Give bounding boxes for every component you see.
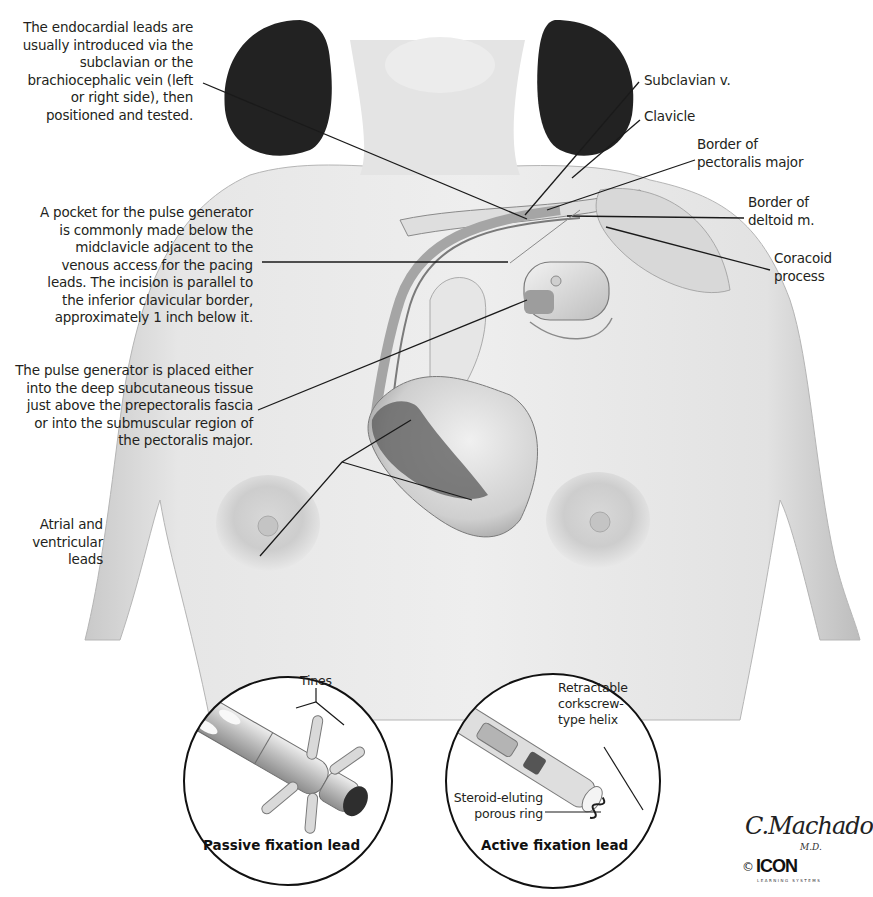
tines-label: Tines	[300, 672, 332, 690]
label-line: Border of	[697, 136, 803, 154]
label-line: or right side), then	[23, 89, 193, 107]
label-line: Coracoid	[774, 250, 832, 268]
label-line: pectoralis major	[697, 154, 803, 172]
label-line: The endocardial leads are	[23, 19, 193, 37]
label-line: Subclavian v.	[644, 72, 731, 90]
label-line: or into the submuscular region of	[15, 415, 253, 433]
label-line: just above the prepectoralis fascia	[15, 397, 253, 415]
label-line: approximately 1 inch below it.	[40, 309, 253, 327]
label-line: corkscrew-	[558, 696, 628, 712]
clavicle-label: Clavicle	[644, 108, 695, 126]
artist-suffix: M.D.	[800, 842, 822, 852]
label-line: leads	[32, 551, 103, 569]
subclavian-v-label: Subclavian v.	[644, 72, 731, 90]
label-line: Tines	[300, 672, 332, 690]
label-line: The pulse generator is placed either	[15, 362, 253, 380]
label-line: A pocket for the pulse generator	[40, 204, 253, 222]
passive-fixation-caption: Passive fixation lead	[203, 837, 360, 853]
label-line: is commonly made below the	[40, 222, 253, 240]
coracoid-process-label: Coracoid process	[774, 250, 832, 285]
helix-label: Retractable corkscrew- type helix	[558, 680, 628, 728]
label-line: usually introduced via the	[23, 37, 193, 55]
label-line: process	[774, 268, 832, 286]
artist-signature: C.Machado	[745, 812, 873, 840]
pocket-label: A pocket for the pulse generator is comm…	[40, 204, 253, 327]
hair-right	[537, 20, 633, 156]
atrial-ventricular-leads-label: Atrial and ventricular leads	[32, 516, 103, 569]
chin	[385, 37, 495, 93]
label-line: leads. The incision is parallel to	[40, 274, 253, 292]
label-line: porous ring	[454, 806, 543, 822]
label-line: into the deep subcutaneous tissue	[15, 380, 253, 398]
label-line: positioned and tested.	[23, 107, 193, 125]
label-line: brachiocephalic vein (left	[23, 72, 193, 90]
active-fixation-caption: Active fixation lead	[481, 837, 628, 853]
label-line: type helix	[558, 712, 628, 728]
label-line: the pectoralis major.	[15, 432, 253, 450]
label-line: deltoid m.	[748, 212, 814, 230]
logo-subtitle: LEARNING SYSTEMS	[757, 878, 821, 883]
label-line: midclavicle adjacent to the	[40, 239, 253, 257]
label-line: Border of	[748, 194, 814, 212]
label-line: Clavicle	[644, 108, 695, 126]
steroid-ring-label: Steroid-eluting porous ring	[454, 790, 543, 822]
label-line: subclavian or the	[23, 54, 193, 72]
border-deltoid-label: Border of deltoid m.	[748, 194, 814, 229]
label-line: the inferior clavicular border,	[40, 292, 253, 310]
label-line: Steroid-eluting	[454, 790, 543, 806]
generator-placement-label: The pulse generator is placed either int…	[15, 362, 253, 450]
label-line: Retractable	[558, 680, 628, 696]
label-line: ventricular	[32, 534, 103, 552]
label-line: venous access for the pacing	[40, 257, 253, 275]
hair-left	[224, 20, 331, 156]
icon-logo: ICON	[756, 856, 797, 877]
illustration-stage: The endocardial leads are usually introd…	[0, 0, 873, 897]
copyright-symbol: ©	[742, 860, 754, 874]
border-pectoralis-major-label: Border of pectoralis major	[697, 136, 803, 171]
endocardial-leads-label: The endocardial leads are usually introd…	[23, 19, 193, 124]
label-line: Atrial and	[32, 516, 103, 534]
